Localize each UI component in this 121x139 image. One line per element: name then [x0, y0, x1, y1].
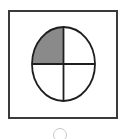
option-radio-button[interactable]	[53, 128, 67, 139]
fraction-circle-figure	[0, 0, 121, 139]
